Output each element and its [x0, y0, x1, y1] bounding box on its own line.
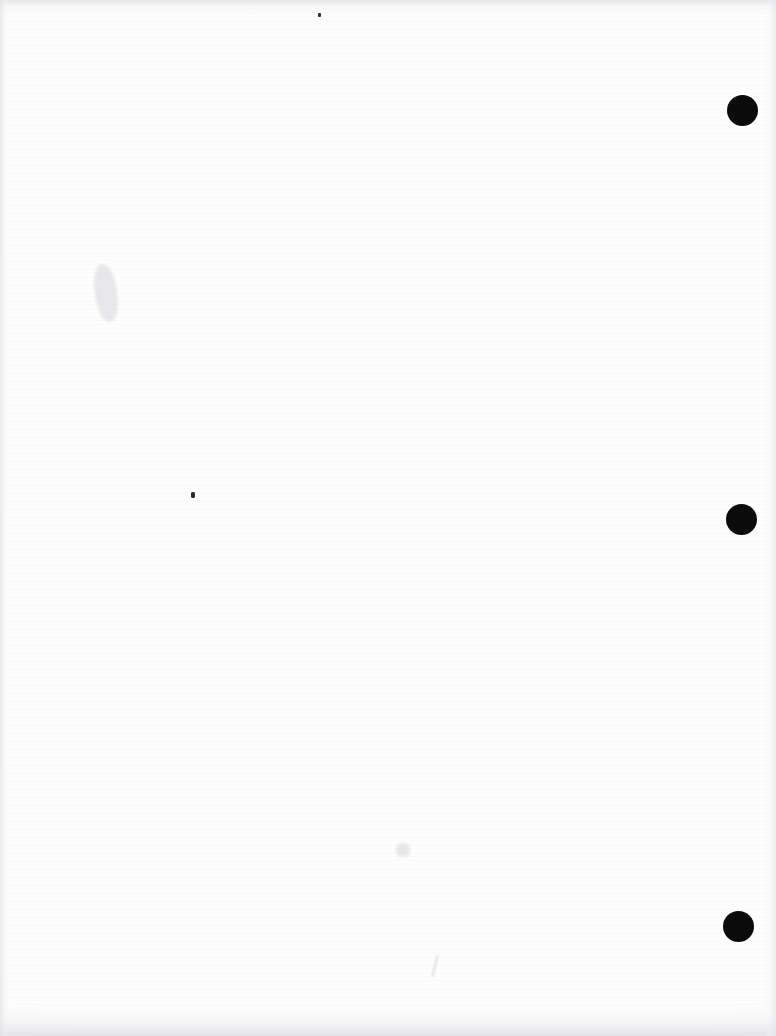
registration-mark-top: [727, 95, 758, 126]
paper-smudge-lower-center: [396, 843, 410, 857]
ink-speck-center-left: [191, 492, 195, 498]
registration-mark-middle: [726, 504, 757, 535]
paper-background: [0, 0, 776, 1036]
ink-speck-top-center: [318, 13, 321, 17]
scanned-page: [0, 0, 776, 1036]
registration-mark-bottom: [723, 911, 754, 942]
